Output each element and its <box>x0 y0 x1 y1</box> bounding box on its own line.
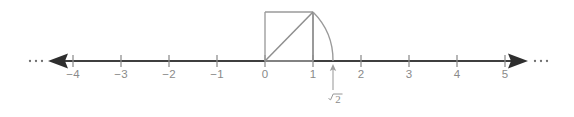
right-arrow-head <box>508 54 528 69</box>
tick-label-minus-3: −3 <box>114 68 128 80</box>
tick-label-2: 2 <box>358 68 365 80</box>
tick-label-3: 3 <box>406 68 413 80</box>
tick-label-minus-4: −4 <box>66 68 80 80</box>
tick-label-minus-1: −1 <box>210 68 224 80</box>
tick-label-1: 1 <box>310 68 317 80</box>
compass-arc <box>313 12 333 61</box>
radicand-text: 2 <box>335 93 341 105</box>
sqrt2-pointer <box>330 64 336 90</box>
tick-labels: −4 −3 −2 −1 0 1 2 3 4 5 <box>66 68 508 80</box>
numberline-canvas: −4 −3 −2 −1 0 1 2 3 4 5 <box>0 0 574 117</box>
square-diagonal <box>265 12 313 61</box>
tick-label-0: 0 <box>262 68 269 80</box>
tick-label-4: 4 <box>454 68 461 80</box>
right-ellipsis <box>534 60 548 62</box>
left-arrow-head <box>48 54 68 69</box>
tick-label-minus-2: −2 <box>162 68 176 80</box>
left-ellipsis <box>29 60 43 62</box>
tick-label-5: 5 <box>502 68 509 80</box>
numberline-figure: −4 −3 −2 −1 0 1 2 3 4 5 <box>0 0 574 117</box>
sqrt2-label: 2 <box>329 93 343 105</box>
